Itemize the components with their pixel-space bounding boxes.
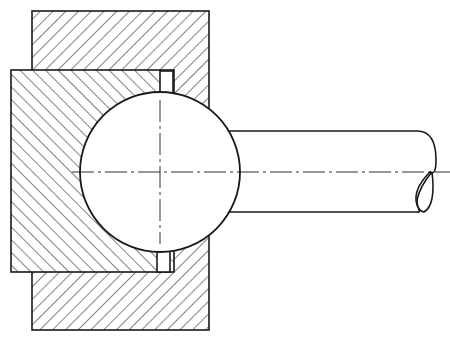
ball-joint-diagram — [0, 0, 450, 354]
